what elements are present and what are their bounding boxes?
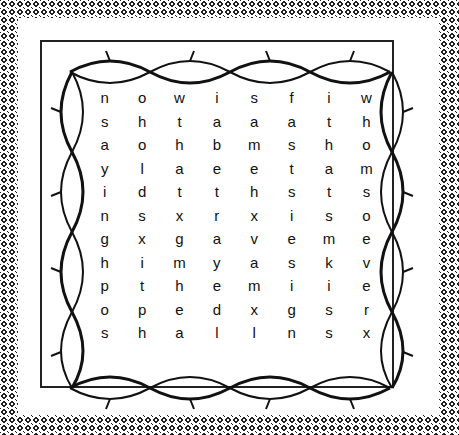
letter-cell: o	[348, 133, 385, 157]
letter-cell: x	[348, 321, 385, 345]
letter-cell: s	[273, 251, 310, 275]
letter-cell: h	[310, 133, 347, 157]
letter-cell: e	[198, 157, 235, 181]
letter-cell: s	[310, 321, 347, 345]
letter-grid: nowisfiwshtaaathaohbmshoylaeetamidtthsts…	[86, 86, 382, 345]
letter-cell: a	[273, 110, 310, 134]
letter-cell: m	[161, 251, 198, 275]
letter-cell: w	[161, 86, 198, 110]
letter-cell: h	[123, 321, 160, 345]
letter-cell: t	[123, 274, 160, 298]
letter-cell: v	[348, 251, 385, 275]
letter-cell: s	[310, 204, 347, 228]
letter-cell: s	[348, 180, 385, 204]
letter-cell: m	[236, 274, 273, 298]
letter-cell: o	[123, 86, 160, 110]
letter-cell: x	[161, 204, 198, 228]
letter-cell: n	[86, 204, 123, 228]
letter-cell: r	[198, 204, 235, 228]
letter-cell: m	[348, 157, 385, 181]
letter-cell: a	[236, 251, 273, 275]
letter-cell: y	[198, 251, 235, 275]
letter-cell: g	[273, 298, 310, 322]
letter-cell: n	[86, 86, 123, 110]
letter-cell: h	[86, 251, 123, 275]
letter-cell: e	[198, 274, 235, 298]
letter-cell: t	[273, 157, 310, 181]
letter-cell: m	[310, 227, 347, 251]
letter-cell: l	[236, 321, 273, 345]
letter-cell: p	[123, 298, 160, 322]
letter-cell: b	[198, 133, 235, 157]
letter-cell: e	[161, 298, 198, 322]
letter-cell: d	[198, 298, 235, 322]
letter-cell: v	[236, 227, 273, 251]
letter-cell: s	[86, 321, 123, 345]
letter-cell: i	[273, 274, 310, 298]
letter-cell: i	[310, 274, 347, 298]
letter-cell: i	[273, 204, 310, 228]
letter-cell: i	[86, 180, 123, 204]
letter-cell: n	[273, 321, 310, 345]
letter-cell: d	[123, 180, 160, 204]
letter-cell: i	[198, 86, 235, 110]
letter-cell: a	[161, 321, 198, 345]
letter-cell: g	[86, 227, 123, 251]
letter-cell: m	[236, 133, 273, 157]
letter-cell: i	[123, 251, 160, 275]
letter-cell: t	[161, 110, 198, 134]
letter-cell: y	[86, 157, 123, 181]
letter-cell: e	[348, 227, 385, 251]
letter-cell: s	[86, 110, 123, 134]
letter-cell: a	[198, 227, 235, 251]
letter-cell: k	[310, 251, 347, 275]
letter-cell: e	[273, 227, 310, 251]
letter-cell: p	[86, 274, 123, 298]
letter-cell: a	[310, 157, 347, 181]
letter-cell: a	[161, 157, 198, 181]
letter-cell: l	[123, 157, 160, 181]
letter-cell: t	[310, 180, 347, 204]
letter-cell: x	[236, 298, 273, 322]
letter-cell: l	[198, 321, 235, 345]
letter-cell: o	[123, 133, 160, 157]
letter-cell: e	[348, 274, 385, 298]
letter-cell: r	[348, 298, 385, 322]
letter-cell: h	[161, 133, 198, 157]
letter-cell: w	[348, 86, 385, 110]
letter-cell: a	[86, 133, 123, 157]
letter-cell: a	[236, 110, 273, 134]
letter-cell: t	[310, 110, 347, 134]
letter-cell: t	[198, 180, 235, 204]
letter-cell: f	[273, 86, 310, 110]
letter-cell: g	[161, 227, 198, 251]
letter-cell: a	[198, 110, 235, 134]
letter-cell: e	[236, 157, 273, 181]
letter-cell: h	[123, 110, 160, 134]
letter-cell: o	[86, 298, 123, 322]
letter-cell: s	[273, 180, 310, 204]
letter-cell: x	[123, 227, 160, 251]
letter-cell: h	[236, 180, 273, 204]
letter-cell: h	[161, 274, 198, 298]
letter-cell: s	[236, 86, 273, 110]
letter-cell: i	[310, 86, 347, 110]
letter-cell: s	[273, 133, 310, 157]
letter-cell: o	[348, 204, 385, 228]
letter-cell: h	[348, 110, 385, 134]
letter-cell: s	[310, 298, 347, 322]
letter-cell: t	[161, 180, 198, 204]
letter-cell: x	[236, 204, 273, 228]
letter-cell: s	[123, 204, 160, 228]
